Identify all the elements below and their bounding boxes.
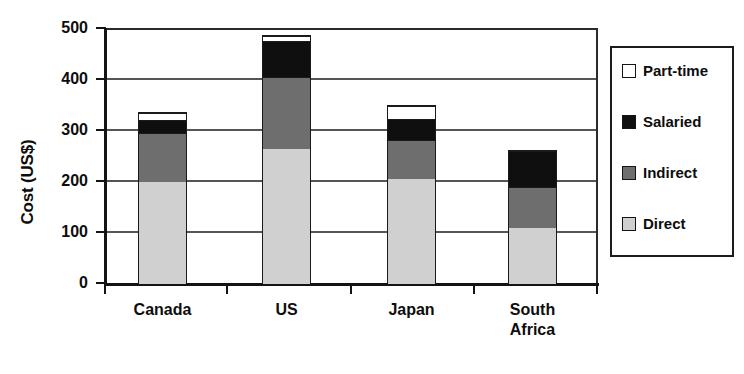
x-axis-tick-label: Japan bbox=[357, 300, 467, 320]
x-axis-tick bbox=[226, 285, 228, 294]
bar-segment-part-time bbox=[263, 36, 310, 41]
legend-label: Salaried bbox=[643, 113, 701, 130]
legend-label: Part-time bbox=[643, 62, 708, 79]
x-axis-tick-label: Canada bbox=[108, 300, 218, 320]
legend-label: Indirect bbox=[643, 164, 697, 181]
bar-south-africa bbox=[508, 150, 557, 283]
x-axis-tick-label-line: US bbox=[232, 300, 342, 320]
bar-segment-salaried bbox=[509, 151, 556, 187]
y-axis-title-text: Cost (US$) bbox=[18, 140, 38, 225]
legend-item-part-time[interactable]: Part-time bbox=[622, 62, 708, 79]
bar-segment-part-time bbox=[388, 106, 435, 119]
y-axis-tick-label: 300 bbox=[46, 122, 88, 138]
y-axis-tick-label: 100 bbox=[46, 224, 88, 240]
bar-segment-direct bbox=[388, 179, 435, 284]
bar-segment-part-time bbox=[139, 113, 186, 120]
x-axis-tick-label-line: Canada bbox=[108, 300, 218, 320]
x-axis-tick-label-line: Japan bbox=[357, 300, 467, 320]
legend-swatch-icon bbox=[622, 115, 636, 129]
bar-canada bbox=[138, 112, 187, 283]
legend-swatch-icon bbox=[622, 166, 636, 180]
x-axis-tick-label-line: Africa bbox=[478, 320, 588, 340]
y-axis-title: Cost (US$) bbox=[8, 92, 48, 272]
legend: Part-timeSalariedIndirectDirect bbox=[610, 46, 734, 257]
bar-segment-salaried bbox=[263, 41, 310, 77]
x-axis-tick bbox=[350, 285, 352, 294]
bar-segment-direct bbox=[139, 182, 186, 284]
x-axis-tick bbox=[473, 285, 475, 294]
x-axis-tick-label: US bbox=[232, 300, 342, 320]
bar-segment-direct bbox=[263, 149, 310, 284]
bar-us bbox=[262, 35, 311, 283]
legend-item-indirect[interactable]: Indirect bbox=[622, 164, 697, 181]
y-axis-tick-label: 0 bbox=[46, 275, 88, 291]
y-axis-tick-label: 400 bbox=[46, 71, 88, 87]
x-axis-tick bbox=[596, 285, 598, 294]
x-axis-tick-label-line: South bbox=[478, 300, 588, 320]
bar-segment-indirect bbox=[509, 187, 556, 228]
legend-swatch-icon bbox=[622, 217, 636, 231]
bar-segment-direct bbox=[509, 228, 556, 284]
x-axis-tick bbox=[104, 285, 106, 294]
y-axis-tick-label: 500 bbox=[46, 20, 88, 36]
legend-label: Direct bbox=[643, 215, 686, 232]
bar-segment-salaried bbox=[388, 119, 435, 140]
legend-item-direct[interactable]: Direct bbox=[622, 215, 686, 232]
bar-segment-indirect bbox=[263, 77, 310, 149]
bar-japan bbox=[387, 105, 436, 283]
bar-segment-salaried bbox=[139, 120, 186, 133]
y-axis-tick-label: 200 bbox=[46, 173, 88, 189]
x-axis-tick-label: SouthAfrica bbox=[478, 300, 588, 340]
bar-segment-indirect bbox=[139, 133, 186, 182]
legend-swatch-icon bbox=[622, 64, 636, 78]
bar-segment-indirect bbox=[388, 140, 435, 179]
legend-item-salaried[interactable]: Salaried bbox=[622, 113, 701, 130]
stacked-bar-chart: Cost (US$) 0100200300400500 CanadaUSJapa… bbox=[0, 0, 744, 374]
